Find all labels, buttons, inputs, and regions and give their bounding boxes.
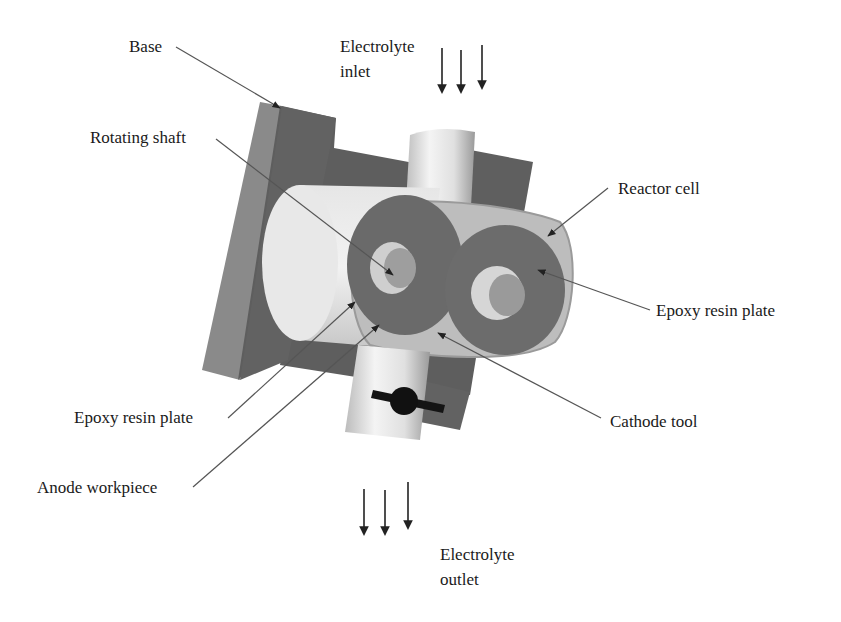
label-electrolyte-outlet-line2: outlet [440,568,479,592]
label-base: Base [129,35,162,59]
label-electrolyte-inlet-line1: Electrolyte [340,35,415,59]
inlet-flow-arrows [442,45,482,92]
leader-reactor-cell [548,188,608,236]
label-electrolyte-outlet-line1: Electrolyte [440,543,515,567]
outlet-pipe [345,345,430,440]
leader-base [176,47,280,108]
label-cathode-tool: Cathode tool [610,410,697,434]
label-electrolyte-inlet-line2: inlet [340,60,370,84]
label-epoxy-resin-plate-left: Epoxy resin plate [74,406,193,430]
label-epoxy-resin-plate-right: Epoxy resin plate [656,299,775,323]
label-anode-workpiece: Anode workpiece [37,476,157,500]
cathode-disc [445,225,565,355]
label-rotating-shaft: Rotating shaft [90,126,186,150]
anode-disc [347,195,463,335]
diagram-canvas: Base Electrolyte inlet Rotating shaft Re… [0,0,841,622]
label-reactor-cell: Reactor cell [618,177,700,201]
outlet-flow-arrows [364,482,408,534]
